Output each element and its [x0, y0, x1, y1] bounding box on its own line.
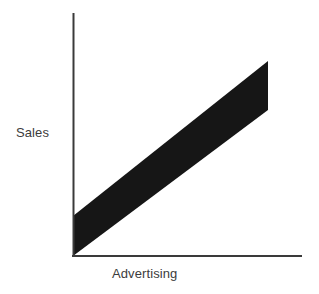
y-axis-label: Sales: [16, 125, 49, 140]
sales-vs-advertising-chart: Sales Advertising: [0, 0, 319, 294]
chart-plot-area: [0, 0, 319, 294]
trend-line-band: [73, 61, 268, 256]
x-axis-label: Advertising: [112, 266, 177, 281]
